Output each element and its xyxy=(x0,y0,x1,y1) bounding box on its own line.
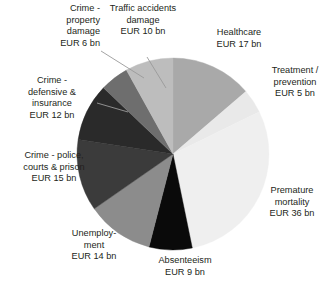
slice-label-crime-defensive: Crime - defensive & insurance EUR 12 bn xyxy=(8,75,96,121)
slice-label-healthcare: Healthcare EUR 17 bn xyxy=(200,27,278,50)
slice-label-crime-police: Crime - police, courts & prison EUR 15 b… xyxy=(8,150,100,185)
slice-label-traffic-accidents: Traffic accidents damage EUR 10 bn xyxy=(104,3,182,38)
slice-label-crime-property: Crime - property damage EUR 6 bn xyxy=(18,3,100,49)
slice-label-absenteeism: Absenteeism EUR 9 bn xyxy=(147,255,223,278)
pie-chart-figure: Crime - property damage EUR 6 bn Traffic… xyxy=(0,0,334,301)
slice-label-unemployment: Unemploy- ment EUR 14 bn xyxy=(56,228,132,263)
slice-label-premature-mortality: Premature mortality EUR 36 bn xyxy=(252,185,332,220)
slice-label-treatment-prevention: Treatment / prevention EUR 5 bn xyxy=(258,65,332,100)
pie-slice-group xyxy=(77,58,269,250)
